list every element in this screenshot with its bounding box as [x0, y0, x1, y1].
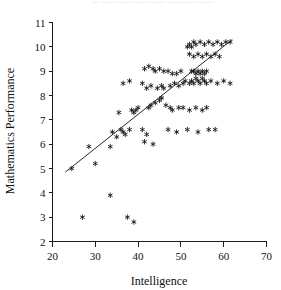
scatter-point	[209, 78, 214, 83]
scatter-point	[146, 64, 151, 69]
scatter-point	[211, 42, 216, 47]
scatter-point	[215, 81, 220, 86]
scatter-point	[206, 39, 211, 44]
y-axis-tick-label: 4	[40, 187, 46, 199]
scatter-point	[155, 86, 160, 91]
scatter-point	[142, 66, 147, 71]
scatter-point	[217, 54, 222, 59]
scatter-point	[166, 68, 171, 73]
y-axis-tick-label: 2	[40, 236, 46, 248]
scatter-point	[121, 81, 126, 86]
scatter-point	[221, 78, 226, 83]
scatter-point	[206, 127, 211, 132]
y-axis-tick-label: 5	[40, 163, 46, 175]
scatter-point	[93, 161, 98, 166]
x-axis-tick-label: 50	[175, 250, 187, 262]
regression-trendline	[65, 40, 232, 173]
scatter-point	[140, 127, 145, 132]
x-axis-tick-label: 70	[261, 250, 273, 262]
scatter-point	[131, 219, 136, 224]
y-axis-tick-label: 8	[40, 90, 46, 102]
scatter-point	[164, 103, 169, 108]
scatter-point	[176, 105, 181, 110]
scatter-markers	[69, 39, 232, 224]
scatter-point	[108, 144, 113, 149]
scatter-point	[80, 214, 85, 219]
x-axis-tick-label: 20	[47, 250, 59, 262]
scatter-point	[127, 78, 132, 83]
scatter-point	[149, 83, 154, 88]
scatter-point	[174, 71, 179, 76]
scatter-point	[194, 105, 199, 110]
scatter-point	[108, 193, 113, 198]
scatter-point	[198, 39, 203, 44]
scatter-point	[144, 86, 149, 91]
scatter-point	[213, 127, 218, 132]
scatter-point	[200, 107, 205, 112]
x-axis-tick-label: 40	[133, 250, 145, 262]
y-axis-tick-labels: 234567891011	[35, 17, 47, 248]
x-axis-tick-labels: 203040506070	[47, 250, 273, 262]
y-axis-tick-label: 7	[40, 114, 46, 126]
x-axis-tick-label: 60	[218, 250, 230, 262]
scatter-point	[174, 129, 179, 134]
scatter-point	[170, 71, 175, 76]
y-axis-tick-label: 3	[40, 211, 46, 223]
scatter-point	[204, 105, 209, 110]
y-axis-tick-label: 9	[40, 65, 46, 77]
scatter-point	[151, 141, 156, 146]
scatter-point	[187, 107, 192, 112]
scatter-point	[196, 129, 201, 134]
scatter-point	[191, 54, 196, 59]
plot-canvas: 234567891011 203040506070 Intelligence M…	[0, 0, 281, 290]
scatter-point	[181, 105, 186, 110]
scatter-point	[187, 51, 192, 56]
x-axis-title: Intelligence	[131, 274, 188, 288]
scatter-point	[144, 132, 149, 137]
x-axis-ticks	[53, 242, 267, 247]
scatter-point	[200, 54, 205, 59]
scatter-point	[228, 81, 233, 86]
scatter-point	[125, 214, 130, 219]
scatter-point	[117, 110, 122, 115]
y-axis-tick-label: 10	[35, 41, 47, 53]
scatter-point	[215, 39, 220, 44]
scatter-point	[185, 127, 190, 132]
scatter-point	[87, 144, 92, 149]
scatter-point	[142, 139, 147, 144]
y-axis-tick-label: 11	[35, 17, 46, 29]
x-axis-tick-label: 30	[90, 250, 102, 262]
scatter-point	[114, 134, 119, 139]
y-axis-tick-label: 6	[40, 138, 46, 150]
y-axis-title: Mathematics Performance	[3, 68, 17, 194]
scatter-point	[179, 68, 184, 73]
scatter-point	[161, 68, 166, 73]
scatter-plot-figure: — —— —— —— —— ———— —— 234567891011 20304…	[0, 0, 281, 290]
scatter-point	[157, 66, 162, 71]
scatter-point	[202, 42, 207, 47]
y-axis-ticks	[49, 23, 53, 242]
scatter-point	[166, 127, 171, 132]
cropped-header-text-fragment: — —— —— —— —— ———— ——	[92, 0, 278, 6]
scatter-point	[196, 51, 201, 56]
scatter-point	[140, 81, 145, 86]
scatter-point	[127, 127, 132, 132]
scatter-point	[204, 51, 209, 56]
axis-frame	[53, 23, 267, 242]
